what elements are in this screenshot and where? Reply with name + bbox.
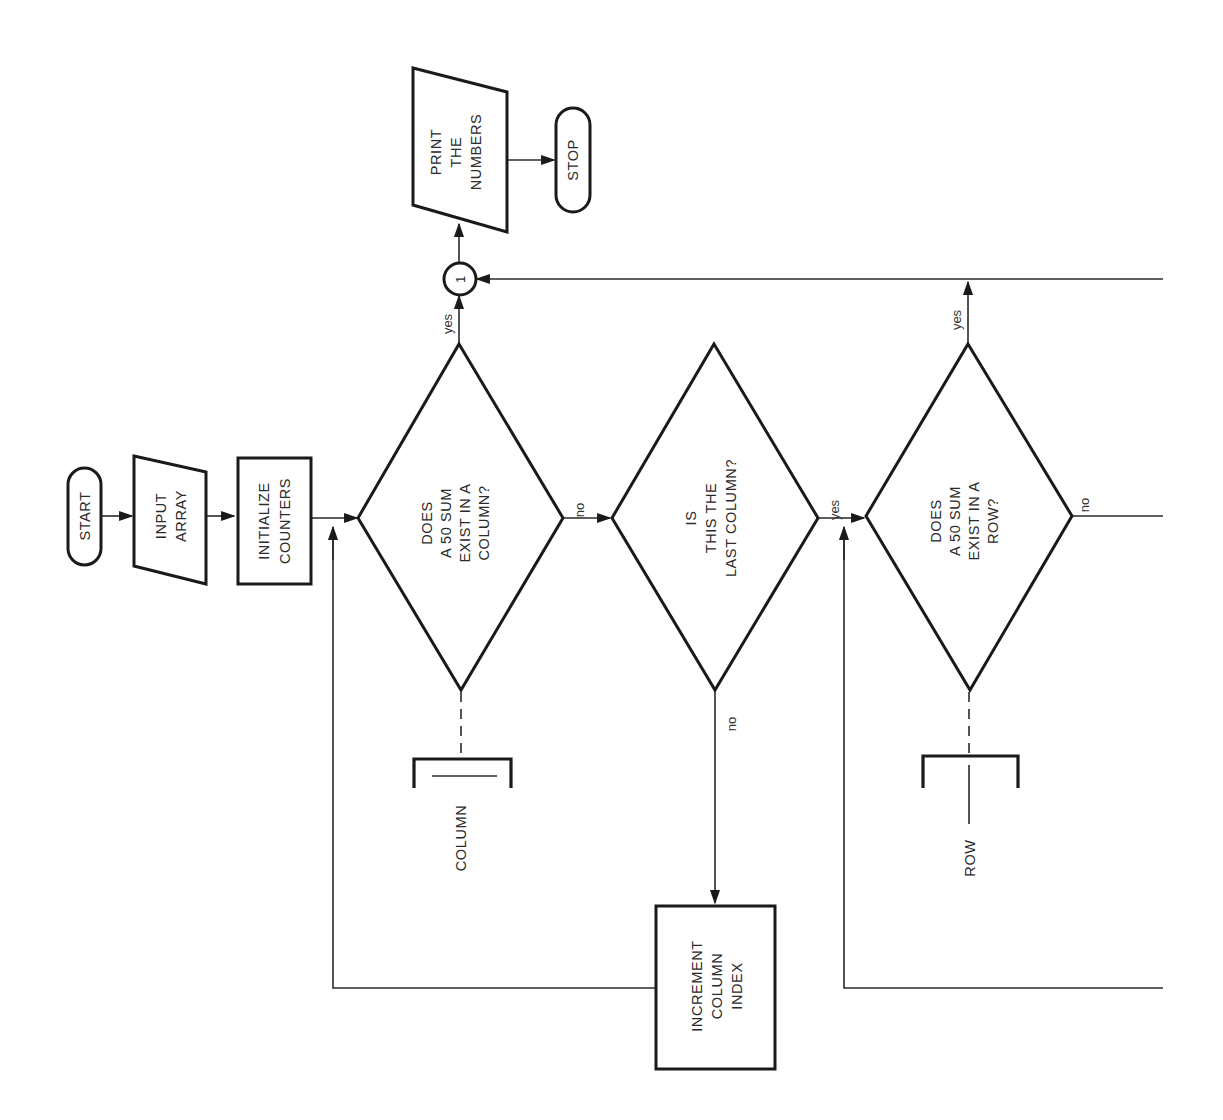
increment-line3: INDEX — [729, 962, 745, 1009]
col-decision-line3: EXIST IN A — [457, 483, 473, 562]
edge-label-row-yes: yes — [949, 309, 964, 330]
row-annotation-label: ROW — [962, 839, 978, 876]
edge-label-column-yes: yes — [440, 313, 455, 334]
print-line2: THE — [448, 137, 464, 168]
init-label-line2: COUNTERS — [277, 478, 293, 564]
row-decision-line2: A 50 SUM — [947, 486, 963, 556]
row-annotation: ROW — [923, 756, 1018, 877]
row-decision-line4: ROW? — [985, 498, 1001, 544]
edge-label-column-no: no — [572, 503, 587, 517]
connector-1: 1 — [444, 263, 476, 295]
increment-line2: COLUMN — [709, 953, 725, 1019]
flowchart-canvas: START INPUT ARRAY INITIALIZE COUNTERS DO… — [0, 0, 1223, 1120]
row-decision-line3: EXIST IN A — [966, 481, 982, 560]
start-terminal: START — [68, 468, 101, 565]
col-decision-line2: A 50 SUM — [438, 488, 454, 558]
stop-label: STOP — [565, 139, 581, 181]
print-numbers-io: PRINT THE NUMBERS — [413, 68, 507, 232]
print-line1: PRINT — [428, 129, 444, 176]
column-sum-decision: DOES A 50 SUM EXIST IN A COLUMN? — [358, 344, 563, 690]
init-label-line1: INITIALIZE — [256, 482, 272, 560]
col-decision-line1: DOES — [419, 501, 435, 545]
column-annotation-label: COLUMN — [453, 805, 469, 871]
edge-label-last-column-yes: yes — [827, 499, 842, 520]
last-col-line3: LAST COLUMN? — [723, 459, 739, 577]
last-col-line2: THIS THE — [703, 483, 719, 554]
increment-line1: INCREMENT — [689, 940, 705, 1032]
col-decision-line4: COLUMN? — [476, 485, 492, 560]
stop-terminal: STOP — [556, 108, 590, 212]
row-sum-decision: DOES A 50 SUM EXIST IN A ROW? — [866, 344, 1072, 690]
row-decision-line1: DOES — [928, 499, 944, 543]
last-col-line1: IS — [683, 511, 699, 526]
increment-column-index-process: INCREMENT COLUMN INDEX — [656, 906, 775, 1069]
column-annotation: COLUMN — [414, 759, 511, 871]
connector-label: 1 — [453, 275, 468, 283]
last-column-decision: IS THIS THE LAST COLUMN? — [612, 344, 818, 690]
edge-label-row-no: no — [1077, 498, 1092, 512]
input-array-io: INPUT ARRAY — [134, 456, 206, 584]
print-line3: NUMBERS — [468, 114, 484, 191]
input-label-line2: ARRAY — [173, 490, 189, 542]
edge-label-last-column-no: no — [724, 717, 739, 731]
start-label: START — [77, 491, 93, 540]
input-label-line1: INPUT — [153, 493, 169, 540]
initialize-counters-process: INITIALIZE COUNTERS — [238, 458, 311, 584]
